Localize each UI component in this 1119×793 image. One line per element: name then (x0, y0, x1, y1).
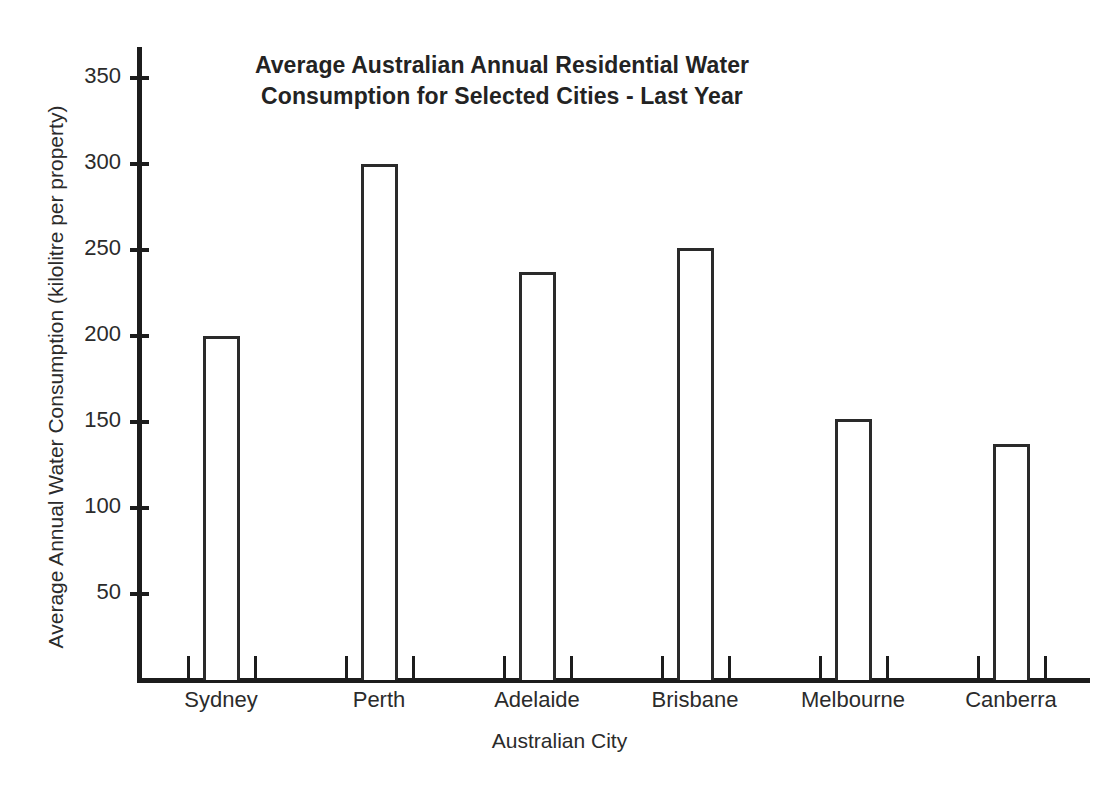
x-axis-tick (728, 656, 731, 679)
y-axis-tick-label: 50 (55, 579, 121, 605)
x-axis-tick (503, 656, 506, 679)
x-axis-tick (254, 656, 257, 679)
bar-brisbane (677, 248, 714, 680)
x-axis-tick (345, 656, 348, 679)
x-axis-tick (819, 656, 822, 679)
x-axis-tick (570, 656, 573, 679)
x-axis-tick (412, 656, 415, 679)
x-axis-tick (977, 656, 980, 679)
x-axis-category-label: Adelaide (447, 687, 627, 713)
bar-canberra (993, 444, 1030, 680)
x-axis-category-label: Sydney (131, 687, 311, 713)
y-axis-tick-label: 250 (55, 235, 121, 261)
y-axis-tick (130, 592, 149, 596)
x-axis-title: Australian City (0, 729, 1119, 753)
bar-perth (361, 164, 398, 680)
y-axis-tick (130, 162, 149, 166)
bar-sydney (203, 336, 240, 680)
x-axis-tick (187, 656, 190, 679)
y-axis-tick-label: 300 (55, 149, 121, 175)
y-axis-tick-label: 150 (55, 407, 121, 433)
y-axis-tick (130, 248, 149, 252)
y-axis-tick (130, 506, 149, 510)
bar-adelaide (519, 272, 556, 680)
y-axis-tick (130, 334, 149, 338)
y-axis-tick-label: 100 (55, 493, 121, 519)
x-axis-category-label: Canberra (921, 687, 1101, 713)
x-axis-category-label: Perth (289, 687, 469, 713)
y-axis-line (137, 47, 142, 683)
y-axis-tick (130, 420, 149, 424)
plot-area: 50100150200250300350 SydneyPerthAdelaide… (0, 0, 1119, 793)
x-axis-line (137, 678, 1090, 683)
bar-melbourne (835, 419, 872, 680)
bar-chart: Average Australian Annual Residential Wa… (0, 0, 1119, 793)
y-axis-tick-label: 200 (55, 321, 121, 347)
x-axis-category-label: Melbourne (763, 687, 943, 713)
x-axis-tick (661, 656, 664, 679)
y-axis-tick (130, 76, 149, 80)
x-axis-category-label: Brisbane (605, 687, 785, 713)
x-axis-tick (1044, 656, 1047, 679)
x-axis-tick (886, 656, 889, 679)
y-axis-tick-label: 350 (55, 63, 121, 89)
